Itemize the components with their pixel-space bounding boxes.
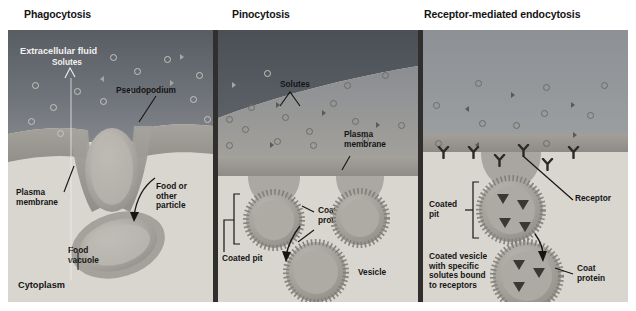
- label-receptor: Receptor: [575, 194, 611, 204]
- solute-triangle: [100, 76, 104, 82]
- solute-circle: [368, 220, 375, 227]
- solute-circle: [324, 274, 331, 281]
- solute-circle: [262, 210, 269, 217]
- solute-triangle: [465, 106, 469, 112]
- receptor-icon: [567, 146, 580, 159]
- label-coat-protein-p2: Coat protein: [318, 206, 346, 225]
- receptor-icon: [467, 146, 480, 159]
- solute-circle: [344, 82, 351, 89]
- solute-circle: [479, 120, 486, 127]
- solute-circle: [587, 112, 594, 119]
- panel-title-pinocytosis: Pinocytosis: [232, 8, 290, 20]
- solute-circle: [318, 258, 325, 265]
- label-extracellular-fluid: Extracellular fluid: [20, 46, 97, 57]
- solute-circle: [356, 220, 363, 227]
- solute-circle: [226, 142, 233, 149]
- solute-triangle: [282, 216, 286, 222]
- label-coated-pit-p2: Coated pit: [222, 254, 263, 264]
- panel-title-phagocytosis: Phagocytosis: [24, 8, 91, 20]
- solute-circle: [310, 272, 317, 279]
- solute-circle: [32, 82, 39, 89]
- solute-triangle: [376, 122, 380, 128]
- label-cytoplasm: Cytoplasm: [18, 280, 65, 291]
- solute-circle: [543, 140, 550, 147]
- solute-circle: [282, 114, 289, 121]
- solute-circle: [306, 128, 313, 135]
- label-food-vacuole: Food vacuole: [68, 246, 99, 265]
- solute-triangle: [571, 102, 575, 108]
- solute-circle: [304, 260, 311, 267]
- solute-triangle: [511, 92, 515, 98]
- label-plasma-membrane-p1: Plasma membrane: [16, 188, 58, 207]
- solute-circle: [204, 116, 211, 123]
- label-coated-pit-p3: Coated pit: [429, 200, 457, 219]
- solute-circle: [268, 222, 275, 229]
- label-solutes-p1: Solutes: [52, 58, 82, 68]
- solute-triangle: [322, 110, 326, 116]
- figure-frame: Extracellular fluid Solutes Pseudopodium…: [8, 30, 628, 302]
- label-coated-vesicle: Coated vesicle with specific solutes bou…: [429, 252, 487, 290]
- solute-circle: [242, 126, 249, 133]
- solute-circle: [330, 100, 337, 107]
- label-vesicle: Vesicle: [358, 268, 386, 278]
- solute-circle: [190, 96, 197, 103]
- solute-circle: [248, 104, 255, 111]
- solute-circle: [433, 102, 440, 109]
- receptor-icon: [437, 146, 450, 159]
- solute-triangle: [180, 54, 184, 60]
- solute-circle: [310, 142, 317, 149]
- solute-triangle: [232, 82, 236, 88]
- solute-circle: [264, 70, 271, 77]
- solute-circle: [280, 226, 287, 233]
- panel-divider-1: [213, 30, 218, 302]
- solute-circle: [226, 116, 233, 123]
- solute-triangle: [262, 198, 266, 204]
- solute-circle: [50, 104, 57, 111]
- solute-circle: [475, 80, 482, 87]
- solute-circle: [352, 118, 359, 125]
- solute-circle: [541, 110, 548, 117]
- solute-circle: [274, 138, 281, 145]
- label-coat-protein-p3: Coat protein: [577, 264, 605, 283]
- panel-phagocytosis: Extracellular fluid Solutes Pseudopodium…: [8, 30, 213, 302]
- solute-circle: [57, 130, 64, 137]
- solute-circle: [276, 208, 283, 215]
- solute-circle: [74, 88, 81, 95]
- solute-circle: [601, 82, 608, 89]
- solute-triangle: [270, 142, 274, 148]
- label-solutes-p2: Solutes: [280, 80, 310, 90]
- solute-circle: [543, 84, 550, 91]
- solute-triangle: [573, 132, 577, 138]
- solute-circle: [513, 122, 520, 129]
- solute-triangle: [276, 102, 280, 108]
- solute-circle: [363, 206, 370, 213]
- receptor-icon: [493, 154, 506, 167]
- solute-circle: [196, 72, 203, 79]
- panel-divider-2: [418, 30, 423, 302]
- panel-pinocytosis: Solutes Plasma membrane Coat protein Coa…: [218, 30, 418, 302]
- label-plasma-membrane-p2: Plasma membrane: [344, 130, 386, 149]
- extracellular-fluid-p1: [8, 30, 213, 302]
- solute-circle: [350, 208, 357, 215]
- panel-receptor-mediated-endocytosis: Receptor Coated pit Coat protein Coated …: [423, 30, 628, 302]
- solute-circle: [28, 118, 35, 125]
- solute-circle: [134, 68, 141, 75]
- panel-title-receptor-mediated-endocytosis: Receptor-mediated endocytosis: [424, 8, 580, 20]
- solute-circle: [382, 72, 389, 79]
- solute-circle: [100, 98, 107, 105]
- solute-circle: [164, 56, 171, 63]
- label-pseudopodium: Pseudopodium: [116, 86, 176, 96]
- solute-triangle: [349, 218, 353, 224]
- solute-circle: [302, 280, 309, 287]
- endocytosis-figure: Phagocytosis Pinocytosis Receptor-mediat…: [0, 0, 636, 311]
- label-food-or-other-particle: Food or other particle: [156, 182, 187, 211]
- receptor-icon: [517, 144, 530, 157]
- receptor-icon: [541, 158, 554, 171]
- solute-triangle: [322, 266, 326, 272]
- solute-circle: [110, 54, 117, 61]
- solute-circle: [398, 122, 405, 129]
